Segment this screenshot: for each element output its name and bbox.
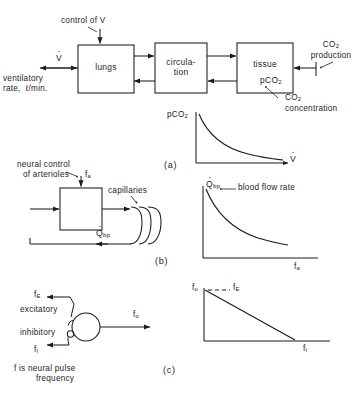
graph-b-ylabel: Qbp [206,180,220,191]
neuron-soma [72,313,100,341]
block-label-circulation-2: tion [155,68,207,78]
graph-b-annotation: blood flow rate [238,183,295,193]
panel-tag-b: (b) [155,256,168,266]
inhibitory-synapse-icon [67,331,73,337]
graph-c-ylabel: fo [192,283,198,295]
graph-a-curve [199,114,283,160]
label-capillaries: capillaries [108,186,147,196]
graph-a-ylabel: pCO2 [167,110,188,122]
graph-a-xlabel: V [290,155,296,165]
graph-c-line [205,290,295,340]
panel-tag-c: (c) [163,365,176,375]
leader-capillaries [131,196,136,202]
label-neural-control-1: neural control [17,160,70,170]
leader-dot-capillaries [136,202,138,204]
leader-co2-production [322,62,333,67]
label-qbp: Qbp [96,229,110,240]
graph-c-xlabel: fI [303,344,307,356]
graph-b-curve [206,189,288,245]
label-neural-pulse-note-1: f is neural pulse [14,364,76,374]
label-v-dot: V [56,54,62,64]
label-fe: fE [34,290,41,302]
block-arterioles [60,188,102,230]
label-control-of-v: control of V [61,16,105,26]
leader-dot-neural-control [76,176,78,178]
label-fi: fI [34,345,38,357]
capillary-loop-1 [130,207,142,244]
line-fi-to-soma [68,337,69,345]
line-fe-to-soma [70,297,74,317]
block-label-tissue-pco2: pCO2 [243,76,299,88]
block-label-tissue: tissue [237,60,293,70]
label-neural-control-2: of arterioles [23,170,69,180]
label-fo-output: fo [133,310,139,322]
block-label-lungs: lungs [78,63,134,73]
label-ventilatory-rate: ventilatory [3,74,43,84]
label-neural-pulse-note-2: frequency [36,374,74,384]
leader-control-of-v [88,27,97,32]
label-excitatory: excitatory [20,305,58,315]
label-ventilatory-rate-units: rate, ℓ/min. [3,84,48,94]
figure-root: control of V V ventilatory rate, ℓ/min. … [0,0,363,393]
label-fa-input: fa [85,170,91,182]
leader-dot-co2-production [320,67,322,69]
panel-tag-a: (a) [164,160,177,170]
graph-c-dashed-label: fE [233,283,240,295]
label-co2-concentration-2: concentration [285,104,337,114]
graph-b-xlabel: fa [294,262,300,274]
label-inhibitory: inhibitory [20,328,55,338]
leader-dot-blood-flow-rate [220,188,222,190]
label-co2-production-2: production [300,51,362,61]
